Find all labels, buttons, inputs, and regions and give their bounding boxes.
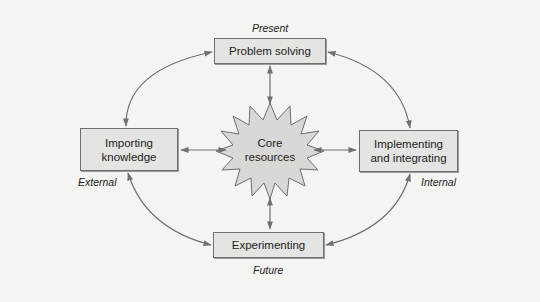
tag-future: Future — [253, 264, 283, 276]
node-importing-label-line1: Importing — [105, 136, 153, 150]
node-implementing-label-line2: and integrating — [370, 151, 446, 165]
tag-external: External — [78, 176, 117, 188]
node-importing-label-line2: knowledge — [102, 150, 157, 164]
arrow-problem-implementing — [328, 52, 410, 128]
arrow-implementing-experimenting — [326, 174, 410, 245]
node-implementing-integrating: Implementing and integrating — [359, 130, 458, 172]
node-problem-solving-label: Problem solving — [229, 44, 311, 58]
tag-internal: Internal — [421, 176, 456, 188]
node-experimenting-label: Experimenting — [232, 238, 306, 252]
arrow-problem-importing — [126, 52, 212, 126]
arrow-importing-experimenting — [128, 173, 211, 245]
node-problem-solving: Problem solving — [214, 38, 326, 64]
core-resources-diagram: Core resources Present Problem solving I… — [0, 0, 540, 302]
core-label-line1: Core — [230, 136, 310, 150]
core-label-line2: resources — [230, 150, 310, 164]
core-resources-label: Core resources — [230, 136, 310, 164]
node-experimenting: Experimenting — [213, 232, 324, 258]
node-importing-knowledge: Importing knowledge — [80, 128, 178, 171]
node-implementing-label-line1: Implementing — [374, 137, 443, 151]
tag-present: Present — [252, 22, 288, 34]
